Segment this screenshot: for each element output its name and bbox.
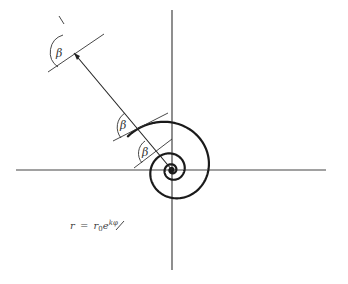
beta-label-inner: β <box>141 146 148 159</box>
radius-vector <box>74 53 172 170</box>
beta-label-outer: β <box>55 47 62 60</box>
equation-equals: = <box>80 220 88 231</box>
equation-exponent: kφ <box>109 219 118 227</box>
log-spiral-diagram: β β β r = r0ekφ <box>0 0 348 284</box>
spiral-equation: r = r0ekφ <box>70 219 118 233</box>
beta-label-middle: β <box>119 119 126 132</box>
equation-lhs: r <box>70 220 76 231</box>
radius-extension-outer <box>59 16 64 24</box>
